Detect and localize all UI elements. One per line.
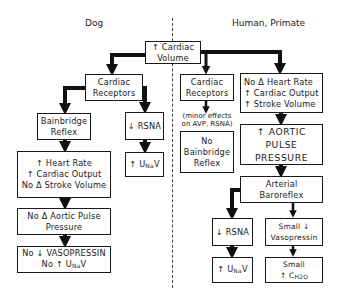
human-unav-box: ↑ UNaV <box>212 257 253 283</box>
dog-unav-box: ↑ UNaV <box>125 152 164 177</box>
dog-vasopressin-box: No ↓ VASOPRESSIN No ↑ UNaV <box>17 246 111 273</box>
human-hemodynamics-box: No Δ Heart Rate ↑ Cardiac Output ↑ Strok… <box>240 73 323 113</box>
human-free-water-clearance-box: Small ↑ CH2O <box>265 257 323 283</box>
dog-cardiac-receptors-box: Cardiac Receptors <box>85 74 143 101</box>
human-arterial-baroreflex-box: Arterial Baroreflex <box>240 176 323 203</box>
minor-effects-note: (minor effects on AVP, RSNA) <box>174 112 240 128</box>
dog-aortic-pulse-pressure-box: No Δ Aortic Pulse Pressure <box>17 208 111 235</box>
human-cardiac-receptors-box: Cardiac Receptors <box>180 74 234 101</box>
human-aortic-pulse-pressure-box: ↑ AORTIC PULSE PRESSURE <box>240 124 323 165</box>
cardiac-volume-box: ↑ Cardiac Volume <box>145 41 201 64</box>
human-rsna-box: ↓ RSNA <box>212 218 253 246</box>
human-no-bainbridge-box: No Bainbridge Reflex <box>180 131 234 173</box>
dog-hemodynamics-box: ↑ Heart Rate ↑ Cardiac Output No Δ Strok… <box>17 151 111 198</box>
dog-bainbridge-reflex-box: Bainbridge Reflex <box>37 113 91 140</box>
human-vasopressin-box: Small ↓ Vasopressin <box>265 218 323 246</box>
dog-rsna-box: ↓ RSNA <box>125 112 164 140</box>
